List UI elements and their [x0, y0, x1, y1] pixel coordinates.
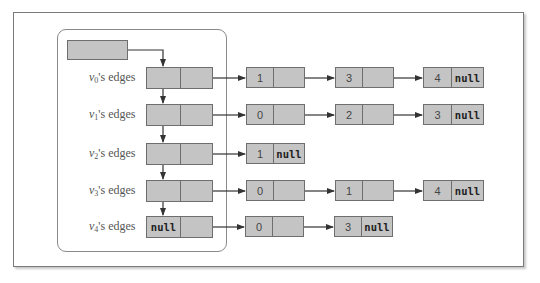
pointer-arrows — [0, 0, 540, 283]
